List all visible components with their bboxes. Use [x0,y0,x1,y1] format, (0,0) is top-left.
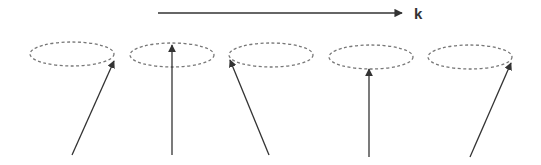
spin-cone-2 [130,43,214,155]
spin-cone-1 [30,42,114,155]
wave-vector-label: k [414,5,423,22]
precession-ellipse [428,45,512,69]
precession-ellipse [229,43,313,67]
spin-wave-diagram: k [0,0,541,165]
precession-ellipse [329,45,413,69]
spin-arrow [72,61,114,155]
spin-cone-3 [229,43,313,155]
spin-cone-4 [329,45,413,157]
spin-arrow [470,63,511,157]
spin-arrow [230,60,269,155]
precession-cones [30,42,512,157]
precession-ellipse [30,42,114,66]
spin-cone-5 [428,45,512,157]
